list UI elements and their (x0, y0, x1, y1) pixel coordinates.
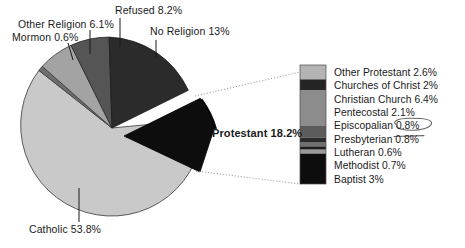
callout-line-top (195, 72, 300, 96)
legend-item-churches-of-christ: Churches of Christ 2% (334, 79, 438, 92)
pie-label-other-religion: Other Religion 6.1% (18, 18, 114, 30)
pie-label-no-religion: No Religion 13% (150, 25, 230, 37)
pie-label-catholic: Catholic 53.8% (29, 223, 101, 235)
legend-item-episcopalian: Episcopalian 0.8% (334, 119, 438, 132)
protestant-breakout-legend: Other Protestant 2.6% Churches of Christ… (334, 66, 438, 186)
bar-segment-baptist (300, 154, 326, 184)
legend-item-other-protestant: Other Protestant 2.6% (334, 66, 438, 79)
pie-chart-figure: Mormon 0.6% Other Religion 6.1% Refused … (0, 0, 465, 248)
bar-segment-other-protestant (300, 65, 326, 79)
callout-line-bottom (196, 171, 300, 184)
protestant-breakout-bar (300, 65, 326, 184)
bar-segment-christian-church (300, 91, 326, 127)
bar-segment-methodist (300, 150, 326, 154)
pie-label-mormon: Mormon 0.6% (12, 31, 78, 43)
legend-item-presbyterian: Presbyterian 0.8% (334, 133, 438, 146)
legend-item-christian-church: Christian Church 6.4% (334, 93, 438, 106)
legend-item-lutheran: Lutheran 0.6% (334, 146, 438, 159)
pie-label-refused: Refused 8.2% (115, 4, 182, 16)
pie-label-protestant: Protestant 18.2% (212, 127, 302, 139)
legend-item-pentecostal: Pentecostal 2.1% (334, 106, 438, 119)
bar-segment-lutheran (300, 146, 326, 149)
legend-item-baptist: Baptist 3% (334, 173, 438, 186)
bar-segment-churches-of-christ (300, 79, 326, 90)
legend-item-methodist: Methodist 0.7% (334, 159, 438, 172)
bar-segment-pentecostal (300, 126, 326, 138)
bar-segment-presbyterian (300, 142, 326, 146)
bar-segment-episcopalian (300, 138, 326, 142)
